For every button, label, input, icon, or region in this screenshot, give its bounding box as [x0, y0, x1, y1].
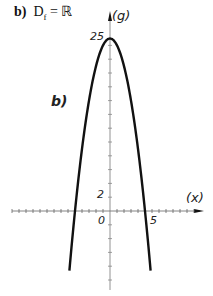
x-tick-5: 5 — [150, 214, 157, 227]
x-axis-label: (x) — [186, 190, 204, 205]
y-tick-25: 25 — [90, 30, 104, 43]
curve-label: b) — [51, 93, 67, 109]
y-tick-2: 2 — [97, 188, 104, 201]
origin-label: 0 — [98, 214, 105, 227]
y-axis-label: (g) — [112, 8, 130, 23]
x-axis-arrow-icon — [194, 209, 204, 213]
plot-area — [0, 0, 213, 296]
